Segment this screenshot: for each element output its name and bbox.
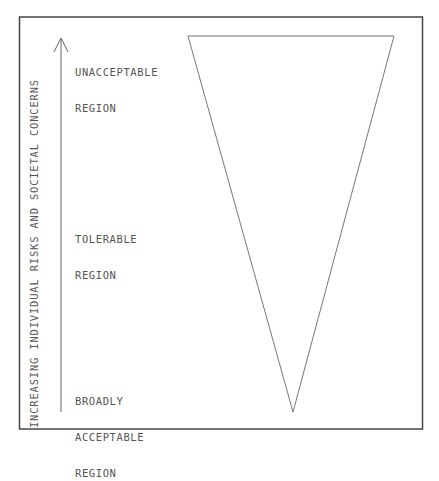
label-line: REGION bbox=[75, 467, 144, 479]
label-line: BROADLY bbox=[75, 395, 144, 407]
tolerable-region-label: TOLERABLE REGION bbox=[75, 209, 137, 293]
label-line: REGION bbox=[75, 102, 158, 114]
label-line: TOLERABLE bbox=[75, 233, 137, 245]
broadly-acceptable-region-label: BROADLY ACCEPTABLE REGION bbox=[75, 371, 144, 481]
label-line: REGION bbox=[75, 269, 137, 281]
axis-label: INCREASING INDIVIDUAL RISKS AND SOCIETAL… bbox=[28, 28, 40, 428]
label-line: ACCEPTABLE bbox=[75, 431, 144, 443]
risk-triangle bbox=[188, 36, 394, 412]
unacceptable-region-label: UNACCEPTABLE REGION bbox=[75, 42, 158, 126]
label-line: UNACCEPTABLE bbox=[75, 66, 158, 78]
